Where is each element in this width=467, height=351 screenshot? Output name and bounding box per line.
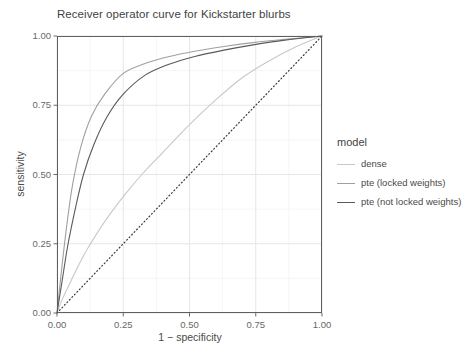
y-tick-label: 0.75	[11, 99, 51, 110]
legend-item[interactable]: pte (locked weights)	[337, 174, 467, 191]
legend-line-swatch	[337, 157, 355, 171]
x-tick-label: 1.00	[302, 319, 342, 330]
legend-item-label: dense	[361, 158, 387, 169]
x-tick-label: 0.25	[103, 319, 143, 330]
legend-item[interactable]: pte (not locked weights)	[337, 193, 467, 210]
x-tick-label: 0.00	[37, 319, 77, 330]
legend-items: densepte (locked weights)pte (not locked…	[337, 155, 467, 210]
legend-title: model	[337, 136, 467, 148]
legend-item[interactable]: dense	[337, 155, 467, 172]
legend-line-swatch	[337, 176, 355, 190]
y-tick-label: 1.00	[11, 30, 51, 41]
x-tick-label: 0.50	[170, 319, 210, 330]
x-axis-title: 1 − specificity	[0, 331, 380, 343]
legend-item-label: pte (locked weights)	[361, 177, 445, 188]
legend-line-swatch	[337, 195, 355, 209]
legend: model densepte (locked weights)pte (not …	[337, 136, 467, 212]
y-tick-label: 0.00	[11, 307, 51, 318]
roc-chart: Receiver operator curve for Kickstarter …	[0, 0, 467, 351]
legend-item-label: pte (not locked weights)	[361, 196, 461, 207]
y-tick-label: 0.25	[11, 238, 51, 249]
x-tick-label: 0.75	[236, 319, 276, 330]
y-tick-label: 0.50	[11, 169, 51, 180]
